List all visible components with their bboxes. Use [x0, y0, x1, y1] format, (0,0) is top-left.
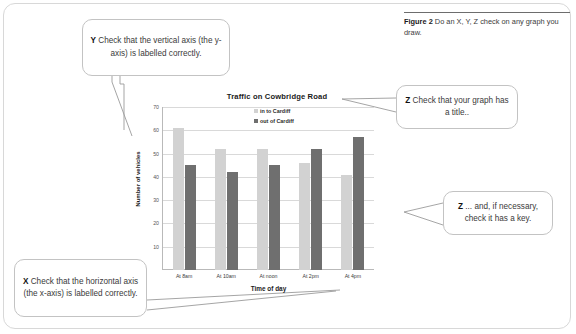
x-tick-label: At 4pm: [333, 273, 373, 279]
y-axis-ticks: 70605040302010: [127, 107, 159, 270]
x-tick-label: At noon: [248, 273, 288, 279]
x-tick-label: At 2pm: [291, 273, 331, 279]
chart-legend: in to Cardiffout of Cardiff: [254, 108, 294, 128]
y-tick-label: 60: [133, 127, 159, 133]
bar-group: [341, 107, 364, 270]
y-tick-label: 50: [133, 151, 159, 157]
bar-group: [299, 107, 322, 270]
y-tick-label: 70: [133, 104, 159, 110]
callout-x-text: Check that the horizontal axis (the x-ax…: [23, 277, 138, 299]
callout-z-key: Z ... and, if necessary, check it has a …: [443, 191, 553, 235]
bar: [215, 149, 226, 270]
callout-x-axis: X Check that the horizontal axis (the x-…: [14, 259, 147, 317]
callout-z-title: Z Check that your graph has a title..: [396, 85, 518, 129]
callout-z-key-text: ... and, if necessary, check it has a ke…: [463, 202, 538, 224]
bar: [173, 128, 184, 270]
bar: [353, 137, 364, 270]
bar-group: [257, 107, 280, 270]
callout-z-title-text: Check that your graph has a title..: [410, 96, 508, 118]
chart-title: Traffic on Cowbridge Road: [162, 92, 392, 101]
legend-item: out of Cardiff: [254, 118, 294, 124]
x-tick-label: At 8am: [164, 273, 204, 279]
x-axis-ticks: At 8amAt 10amAt noonAt 2pmAt 4pm: [163, 273, 374, 279]
bars-layer: [163, 107, 374, 270]
y-tick-label: 30: [133, 197, 159, 203]
x-tick-label: At 10am: [206, 273, 246, 279]
callout-y-text: Check that the vertical axis (the y-axis…: [96, 36, 222, 58]
bar: [257, 149, 268, 270]
bar-group: [215, 107, 238, 270]
callout-y-axis: Y Check that the vertical axis (the y-ax…: [82, 19, 230, 76]
bar: [299, 163, 310, 270]
bar: [341, 175, 352, 270]
bar: [311, 149, 322, 270]
legend-swatch: [254, 119, 258, 123]
bar: [269, 165, 280, 270]
figure-caption: Figure 2 Do an X, Y, Z check on any grap…: [404, 12, 570, 38]
bar-group: [173, 107, 196, 270]
bar: [185, 165, 196, 270]
figure-page: Figure 2 Do an X, Y, Z check on any grap…: [0, 0, 576, 334]
legend-item: in to Cardiff: [254, 108, 294, 114]
y-tick-label: 40: [133, 174, 159, 180]
y-tick-label: 10: [133, 244, 159, 250]
y-tick-label: 20: [133, 220, 159, 226]
legend-swatch: [254, 109, 258, 113]
bar: [227, 172, 238, 270]
figure-label: Figure 2: [404, 17, 433, 26]
x-axis-title: Time of day: [163, 285, 374, 292]
legend-label: out of Cardiff: [260, 118, 294, 124]
legend-label: in to Cardiff: [260, 108, 290, 114]
